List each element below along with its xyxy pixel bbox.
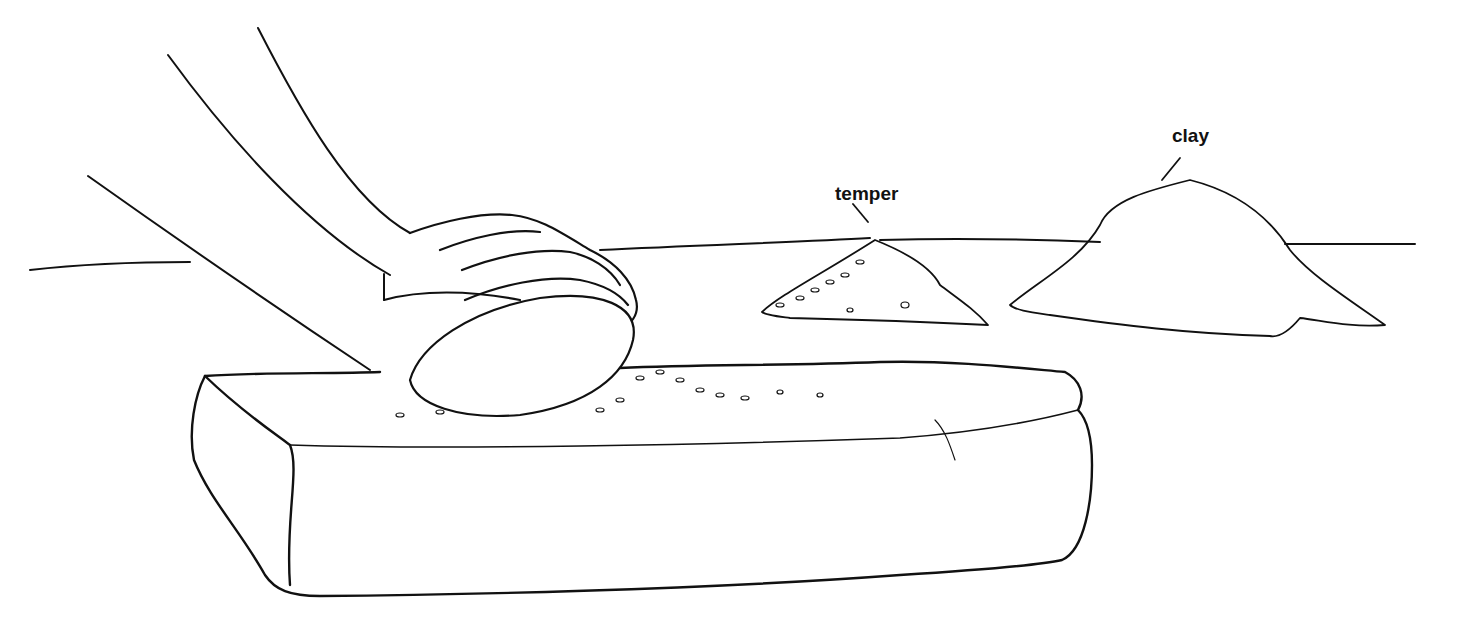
temper-label: temper xyxy=(835,183,898,205)
metate xyxy=(192,362,1092,596)
horizon-line xyxy=(30,238,1415,270)
temper-pile xyxy=(762,240,988,325)
clay-label: clay xyxy=(1172,125,1209,147)
illustration xyxy=(0,0,1463,629)
clay-leader-line xyxy=(1162,158,1180,180)
temper-leader-line xyxy=(853,204,868,222)
mano-stone xyxy=(410,296,634,416)
clay-pile xyxy=(1010,180,1385,336)
arm xyxy=(88,28,410,370)
